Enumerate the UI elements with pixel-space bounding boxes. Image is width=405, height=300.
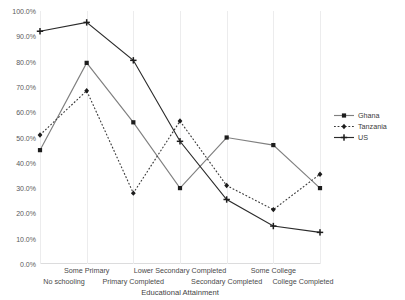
y-axis-tick-label: 90.0% [16,33,36,40]
data-point-marker-square [178,186,182,190]
data-point-marker-square [318,186,322,190]
legend-item-label: Ghana [358,111,380,120]
y-axis-tick-label: 100.0% [12,8,36,15]
y-axis: 0.0%10.0%20.0%30.0%40.0%50.0%60.0%70.0%8… [0,0,40,300]
y-axis-tick-label: 0.0% [20,261,36,268]
y-axis-tick-label: 70.0% [16,83,36,90]
legend-swatch-icon [333,133,355,142]
plot-area [40,11,320,264]
series-line [40,22,320,232]
x-axis-tick-label: Lower Secondary Completed [134,266,227,275]
y-axis-tick-label: 40.0% [16,159,36,166]
data-point-marker-cross [317,229,323,235]
data-point-marker-cross [270,223,276,229]
y-axis-tick-label: 10.0% [16,235,36,242]
y-axis-tick-label: 80.0% [16,58,36,65]
data-point-marker-square [85,61,89,65]
x-axis-tick-label: Secondary Completed [191,277,262,286]
legend-item-tanzania[interactable]: Tanzania [333,121,387,132]
legend-swatch-icon [333,122,355,131]
chart-legend: GhanaTanzaniaUS [333,110,387,143]
x-axis-title: Educational Attainment [141,288,219,297]
legend-swatch-icon [333,111,355,120]
x-axis-tick-label: Some College [251,266,296,275]
data-point-marker-cross [341,134,347,140]
x-axis-tick-label: No schooling [43,277,85,286]
legend-item-ghana[interactable]: Ghana [333,110,387,121]
data-point-marker-square [342,113,346,117]
y-axis-tick-label: 60.0% [16,109,36,116]
x-axis-tick-label: College Completed [272,277,333,286]
y-axis-tick-label: 20.0% [16,210,36,217]
legend-item-label: US [358,133,368,142]
y-axis-tick-label: 50.0% [16,134,36,141]
series-tanzania [38,88,323,212]
x-axis-tick-label: Some Primary [64,266,110,275]
gridline [320,11,321,264]
data-point-marker-diamond [342,124,347,129]
data-point-marker-square [131,120,135,124]
data-point-marker-diamond [131,190,136,195]
series-us [37,19,323,235]
data-point-marker-square [271,143,275,147]
line-chart: 0.0%10.0%20.0%30.0%40.0%50.0%60.0%70.0%8… [0,0,405,300]
x-axis-tick-label: Primary Completed [103,277,165,286]
legend-item-us[interactable]: US [333,132,387,143]
y-axis-tick-label: 30.0% [16,185,36,192]
series-line [40,63,320,188]
data-point-marker-square [225,135,229,139]
series-layer [40,11,320,264]
legend-item-label: Tanzania [358,122,387,131]
series-ghana [38,61,322,190]
